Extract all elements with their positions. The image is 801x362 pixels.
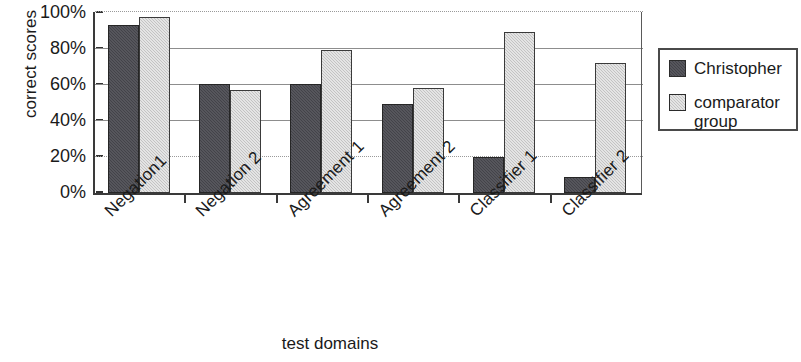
y-tick-label-100: 100%: [14, 3, 86, 21]
y-tick-label-0: 0%: [14, 183, 86, 201]
bar-series-container: [93, 12, 641, 193]
x-tick-mark-3: [367, 195, 369, 203]
y-tick-label-20: 20%: [14, 147, 86, 165]
legend-swatch-christopher-icon: [669, 60, 686, 77]
x-axis-title: test domains: [0, 334, 660, 354]
y-axis-tick-labels: 100% 80% 60% 40% 20% 0%: [10, 0, 86, 200]
x-tick-mark-5: [550, 195, 552, 203]
y-tick-label-60: 60%: [14, 75, 86, 93]
bar-chart-figure: correct scores 100% 80% 60% 40% 20% 0% N…: [0, 0, 801, 362]
legend-item-christopher: Christopher: [669, 60, 782, 78]
y-tick-label-40: 40%: [14, 111, 86, 129]
bar-christopher-negation1: [108, 25, 139, 193]
x-tick-mark-1: [184, 195, 186, 203]
legend-item-comparator-group: comparator group: [669, 94, 780, 131]
chart-legend: Christopher comparator group: [658, 48, 798, 131]
x-tick-mark-4: [458, 195, 460, 203]
y-tick-label-80: 80%: [14, 39, 86, 57]
legend-label-comparator-group: comparator group: [694, 93, 780, 131]
x-tick-mark-2: [276, 195, 278, 203]
legend-label-christopher: Christopher: [694, 59, 782, 78]
legend-swatch-comparator-group-icon: [669, 94, 686, 111]
